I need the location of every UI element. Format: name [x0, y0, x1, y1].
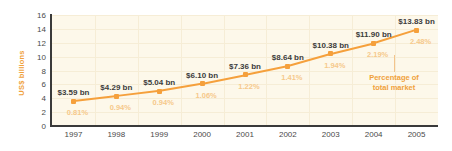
gridline-vertical — [138, 15, 139, 126]
x-tick-label: 2002 — [268, 130, 308, 139]
y-tick-label: 16 — [26, 12, 46, 20]
data-point-value-label: $13.83 bn — [398, 17, 434, 26]
annotation-leader-line — [394, 55, 395, 72]
data-point-marker — [200, 81, 205, 86]
y-tick-label: 12 — [26, 40, 46, 48]
data-point-value-label: $7.36 bn — [229, 62, 261, 71]
gridline-vertical — [181, 15, 182, 126]
data-point-value-label: $6.10 bn — [186, 71, 218, 80]
gridline-horizontal — [52, 43, 438, 44]
chart-container: US$ billions 16 14 12 10 8 6 4 2 0 $3.59… — [0, 0, 452, 151]
y-tick-label: 8 — [26, 68, 46, 76]
data-point-percent-label: 1.22% — [238, 82, 259, 91]
data-point-marker — [157, 89, 162, 94]
data-point-marker — [285, 64, 290, 69]
data-point-value-label: $8.64 bn — [272, 53, 304, 62]
data-point-value-label: $10.38 bn — [313, 41, 349, 50]
data-point-percent-label: 1.94% — [324, 61, 345, 70]
gridline-vertical — [309, 15, 310, 126]
x-tick-label: 1997 — [53, 130, 93, 139]
data-point-percent-label: 0.94% — [153, 98, 174, 107]
annotation-line-2: total market — [373, 83, 416, 92]
data-point-percent-label: 2.19% — [367, 50, 388, 59]
data-point-marker — [414, 28, 419, 33]
data-point-percent-label: 1.41% — [281, 73, 302, 82]
x-tick-label: 1999 — [139, 130, 179, 139]
data-point-marker — [371, 41, 376, 46]
y-axis-line — [50, 14, 52, 127]
data-point-value-label: $4.29 bn — [100, 83, 132, 92]
x-tick-label: 2004 — [354, 130, 394, 139]
y-tick-label: 0 — [26, 123, 46, 131]
gridline-horizontal — [52, 15, 438, 16]
gridline-vertical — [352, 15, 353, 126]
data-point-percent-label: 0.94% — [110, 103, 131, 112]
x-tick-label: 2005 — [397, 130, 437, 139]
annotation-line-1: Percentage of — [369, 73, 419, 82]
y-tick-label: 14 — [26, 26, 46, 34]
gridline-vertical — [95, 15, 96, 126]
y-tick-label: 2 — [26, 109, 46, 117]
data-point-marker — [328, 51, 333, 56]
gridline-vertical — [395, 15, 396, 126]
data-point-value-label: $11.90 bn — [356, 30, 392, 39]
gridline-vertical — [224, 15, 225, 126]
y-axis-title: US$ billions — [16, 38, 28, 108]
x-tick-label: 2001 — [225, 130, 265, 139]
x-tick-label: 2003 — [311, 130, 351, 139]
y-tick-label: 10 — [26, 54, 46, 62]
y-tick-label: 4 — [26, 95, 46, 103]
data-point-percent-label: 1.06% — [195, 91, 216, 100]
x-axis-line — [50, 125, 438, 127]
gridline-horizontal — [52, 112, 438, 113]
data-point-marker — [71, 99, 76, 104]
gridline-horizontal — [52, 98, 438, 99]
data-point-percent-label: 2.48% — [410, 37, 431, 46]
data-point-value-label: $3.59 bn — [57, 88, 89, 97]
data-point-marker — [114, 94, 119, 99]
data-point-marker — [243, 72, 248, 77]
x-tick-label: 2000 — [182, 130, 222, 139]
data-point-percent-label: 0.81% — [67, 108, 88, 117]
data-point-value-label: $5.04 bn — [143, 78, 175, 87]
y-tick-label: 6 — [26, 81, 46, 89]
x-tick-label: 1998 — [96, 130, 136, 139]
annotation-percentage-of-total-market: Percentage of total market — [369, 73, 419, 93]
